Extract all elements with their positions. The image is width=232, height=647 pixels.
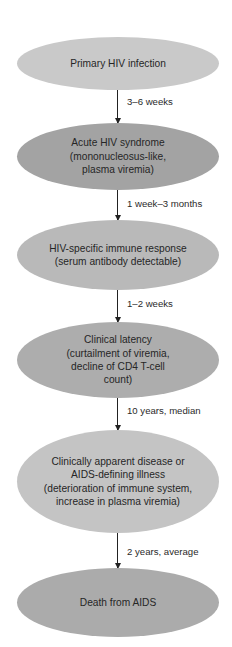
edge-label-2-years-average: 2 years, average xyxy=(127,546,198,558)
node-label: Clinical latency (curtailment of viremia… xyxy=(66,333,169,387)
node-acute-hiv-syndrome: Acute HIV syndrome (mononucleosus-like, … xyxy=(17,123,219,190)
node-label: Primary HIV infection xyxy=(70,57,166,70)
node-label: Death from AIDS xyxy=(80,596,156,609)
node-clinical-latency: Clinical latency (curtailment of viremia… xyxy=(17,322,219,398)
node-label: HIV-specific immune response (serum anti… xyxy=(49,242,187,269)
node-line: Death from AIDS xyxy=(80,596,156,609)
arrow-down-icon xyxy=(117,290,118,322)
arrow-down-icon xyxy=(117,90,118,123)
node-label: Acute HIV syndrome (mononucleosus-like, … xyxy=(70,136,166,176)
edge-label-3-6-weeks: 3–6 weeks xyxy=(127,96,173,108)
node-line: Acute HIV syndrome xyxy=(70,136,166,149)
arrow-down-icon xyxy=(117,533,118,568)
node-label: Clinically apparent disease or AIDS-defi… xyxy=(44,455,192,509)
node-primary-hiv-infection: Primary HIV infection xyxy=(17,37,219,90)
node-line: count) xyxy=(66,373,169,386)
node-line: (mononucleosus-like, xyxy=(70,150,166,163)
node-hiv-specific-immune-response: HIV-specific immune response (serum anti… xyxy=(17,220,219,290)
node-line: Clinically apparent disease or xyxy=(44,455,192,468)
arrow-down-icon xyxy=(117,398,118,430)
edge-label-1-2-weeks: 1–2 weeks xyxy=(127,298,173,310)
arrow-down-icon xyxy=(117,190,118,220)
node-death-from-aids: Death from AIDS xyxy=(17,568,219,637)
node-line: increase in plasma viremia) xyxy=(44,495,192,508)
node-line: decline of CD4 T-cell xyxy=(66,360,169,373)
node-line: (deterioration of immune system, xyxy=(44,482,192,495)
node-line: Clinical latency xyxy=(66,333,169,346)
edge-label-10-years-median: 10 years, median xyxy=(127,405,201,417)
node-clinically-apparent-disease: Clinically apparent disease or AIDS-defi… xyxy=(17,430,219,533)
node-line: plasma viremia) xyxy=(70,163,166,176)
node-line: AIDS-defining illness xyxy=(44,468,192,481)
node-line: (serum antibody detectable) xyxy=(49,255,187,268)
node-line: Primary HIV infection xyxy=(70,57,166,70)
edge-label-1-week-3-months: 1 week–3 months xyxy=(127,198,202,210)
node-line: (curtailment of viremia, xyxy=(66,347,169,360)
node-line: HIV-specific immune response xyxy=(49,242,187,255)
